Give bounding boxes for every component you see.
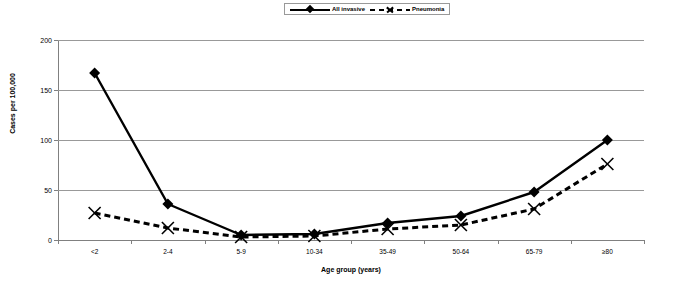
x-tick-mark: [58, 240, 59, 244]
x-tick-label: 50-64: [453, 248, 470, 255]
x-tick-label: 5-9: [236, 248, 245, 255]
diamond-marker: [236, 230, 247, 241]
series-layer: [58, 40, 644, 240]
legend-entry-all-invasive: All invasive: [290, 6, 365, 13]
series-all-invasive: [89, 68, 613, 241]
legend-dashed-line-x-icon: [370, 6, 410, 13]
x-tick-mark: [498, 240, 499, 244]
diamond-marker: [89, 68, 100, 79]
x-tick-mark: [644, 240, 645, 244]
diamond-marker: [382, 218, 393, 229]
x-tick-mark: [131, 240, 132, 244]
y-tick-label: 150: [40, 87, 52, 94]
diamond-marker: [162, 199, 173, 210]
x-tick-mark: [205, 240, 206, 244]
x-tick-mark: [571, 240, 572, 244]
x-tick-label: 2-4: [163, 248, 172, 255]
x-marker: [601, 158, 613, 170]
x-tick-mark: [424, 240, 425, 244]
y-tick-label: 200: [40, 37, 52, 44]
y-tick-label: 50: [44, 187, 52, 194]
series-line: [95, 73, 608, 235]
diamond-marker-icon: [306, 4, 314, 12]
y-tick-label: 0: [48, 237, 52, 244]
legend-entry-pneumonia: Pneumonia: [370, 6, 444, 13]
plot-area: 050100150200 <22-45-910-3435-4950-6465-7…: [58, 40, 644, 240]
x-tick-label: 35-49: [379, 248, 396, 255]
x-axis-title: Age group (years): [58, 266, 644, 273]
diamond-marker: [455, 211, 466, 222]
x-tick-mark: [351, 240, 352, 244]
chart-legend: All invasive Pneumonia: [284, 3, 450, 15]
x-marker-icon: [386, 6, 394, 13]
y-tick-label: 100: [40, 137, 52, 144]
x-tick-label: 65-79: [526, 248, 543, 255]
x-tick-label: <2: [91, 248, 98, 255]
x-marker: [528, 203, 540, 215]
y-axis-title: Cases per 100,000: [9, 73, 16, 134]
x-tick-mark: [278, 240, 279, 244]
legend-label-all-invasive: All invasive: [332, 6, 365, 12]
line-chart: All invasive Pneumonia Cases per 100,000…: [0, 0, 694, 287]
legend-solid-line-diamond-icon: [290, 6, 330, 13]
diamond-marker: [309, 229, 320, 240]
x-tick-label: 10-34: [306, 248, 323, 255]
x-tick-label: ≥80: [602, 248, 613, 255]
series-line: [95, 164, 608, 237]
legend-label-pneumonia: Pneumonia: [412, 6, 444, 12]
